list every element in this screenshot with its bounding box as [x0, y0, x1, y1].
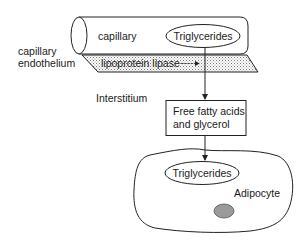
endothelium-label-line1: capillary — [18, 45, 57, 57]
lipid-uptake-diagram: capillary Triglycerides capillary endoth… — [0, 0, 306, 242]
lipoprotein-lipase-label: lipoprotein lipase — [101, 57, 180, 69]
endothelium-label-line2: endothelium — [18, 57, 75, 69]
nucleus — [214, 204, 234, 218]
capillary-opening — [71, 17, 87, 54]
adipocyte-triglycerides-label: Triglycerides — [172, 167, 231, 179]
capillary-label: capillary — [98, 30, 137, 42]
interstitium-label: Interstitium — [96, 92, 148, 104]
free-fatty-acids-line2: and glycerol — [173, 118, 230, 130]
capillary-triglycerides-label: Triglycerides — [173, 30, 232, 42]
free-fatty-acids-line1: Free fatty acids — [173, 105, 245, 117]
adipocyte-label: Adipocyte — [234, 187, 280, 199]
